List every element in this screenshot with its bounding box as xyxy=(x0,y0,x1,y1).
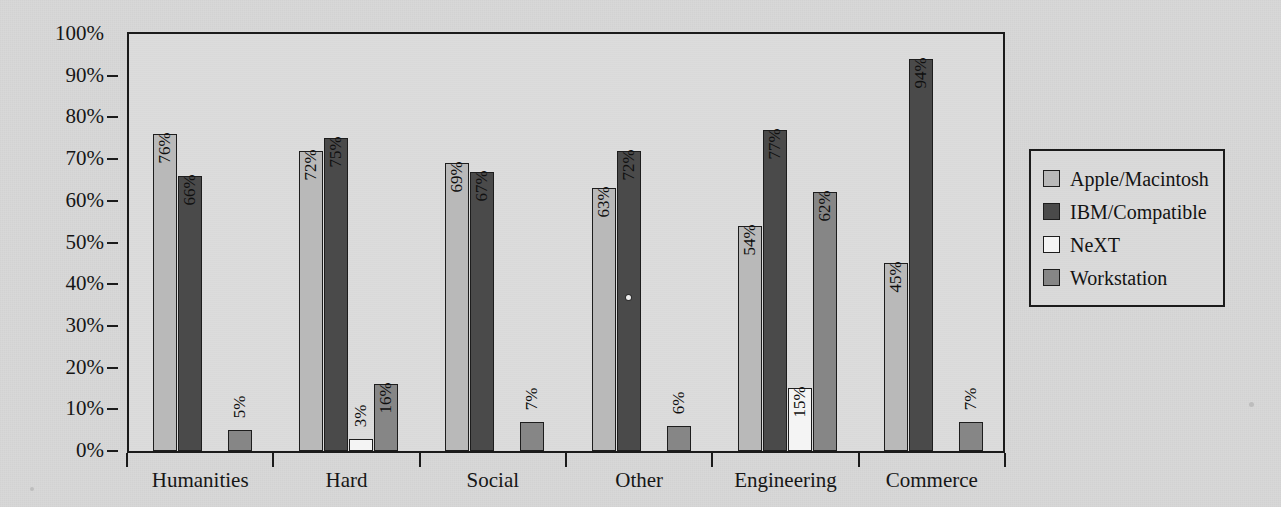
bar-value-label: 5% xyxy=(230,396,250,419)
y-axis-tick-label: 80% xyxy=(66,104,105,129)
x-axis-separator-tick xyxy=(858,453,860,467)
legend-item-label: NeXT xyxy=(1070,235,1120,255)
bar-group-engineering: 54%77%15%62% xyxy=(714,34,860,451)
bar: 66% xyxy=(178,176,202,451)
legend-item-label: IBM/Compatible xyxy=(1070,202,1207,222)
bar-value-label: 69% xyxy=(447,162,467,193)
x-axis-category-label: Social xyxy=(467,468,520,493)
bar-value-label: 7% xyxy=(522,387,542,410)
y-axis-tick-mark xyxy=(107,242,118,244)
legend-item-ibm-compatible[interactable]: IBM/Compatible xyxy=(1043,195,1211,228)
bar: 15% xyxy=(788,388,812,451)
y-axis-tick-label: 10% xyxy=(66,396,105,421)
bar: 3% xyxy=(349,439,373,452)
x-axis: HumanitiesHardSocialOtherEngineeringComm… xyxy=(0,453,1281,507)
bar: 77% xyxy=(763,130,787,451)
y-axis-tick-label: 60% xyxy=(66,188,105,213)
y-axis-tick-mark xyxy=(107,325,118,327)
x-axis-separator-tick xyxy=(272,453,274,467)
bar-group-social: 69%67%7% xyxy=(422,34,568,451)
bar-value-label: 63% xyxy=(594,187,614,218)
y-axis-tick-mark xyxy=(107,283,118,285)
scan-speck xyxy=(30,487,34,491)
y-axis-tick-mark xyxy=(107,367,118,369)
bar: 63% xyxy=(592,188,616,451)
legend: Apple/MacintoshIBM/CompatibleNeXTWorksta… xyxy=(1029,149,1225,307)
x-axis-category-label: Commerce xyxy=(886,468,978,493)
y-axis-tick-mark xyxy=(107,158,118,160)
y-axis-tick-label: 20% xyxy=(66,355,105,380)
x-axis-origin-tick xyxy=(126,453,128,467)
legend-item-label: Workstation xyxy=(1070,268,1167,288)
bar-group-commerce: 45%94%7% xyxy=(861,34,1007,451)
bars-layer: 76%66%5%72%75%3%16%69%67%7%63%72%6%54%77… xyxy=(129,34,1003,451)
bar-value-label: 75% xyxy=(326,137,346,168)
legend-item-label: Apple/Macintosh xyxy=(1070,169,1209,189)
bar-value-label: 3% xyxy=(351,404,371,427)
x-axis-separator-tick xyxy=(419,453,421,467)
y-axis-tick-mark xyxy=(107,116,118,118)
legend-item-workstation[interactable]: Workstation xyxy=(1043,261,1211,294)
y-axis-tick-mark xyxy=(107,450,118,452)
bar: 94% xyxy=(909,59,933,451)
bar-value-label: 72% xyxy=(619,149,639,180)
legend-swatch-icon xyxy=(1043,170,1060,187)
bar-value-label: 66% xyxy=(180,174,200,205)
bar-value-label: 72% xyxy=(301,149,321,180)
legend-item-apple-macintosh[interactable]: Apple/Macintosh xyxy=(1043,162,1211,195)
bar-value-label: 16% xyxy=(376,383,396,414)
bar: 62% xyxy=(813,192,837,451)
y-axis-tick-label: 70% xyxy=(66,146,105,171)
bar-value-label: 62% xyxy=(815,191,835,222)
bar: 76% xyxy=(153,134,177,451)
bar: 45% xyxy=(884,263,908,451)
plot-area: 76%66%5%72%75%3%16%69%67%7%63%72%6%54%77… xyxy=(127,32,1005,453)
bar: 7% xyxy=(520,422,544,451)
x-axis-separator-tick xyxy=(711,453,713,467)
legend-swatch-icon xyxy=(1043,236,1060,253)
x-axis-category-label: Engineering xyxy=(734,468,837,493)
bar-value-label: 76% xyxy=(155,133,175,164)
bar-group-hard: 72%75%3%16% xyxy=(275,34,421,451)
y-axis-tick-mark xyxy=(107,408,118,410)
bar-value-label: 45% xyxy=(886,262,906,293)
y-axis: 0%10%20%30%40%50%60%70%80%90%100% xyxy=(0,32,118,453)
scan-artifact-dot xyxy=(626,295,631,300)
x-axis-category-label: Humanities xyxy=(152,468,249,493)
x-axis-separator-tick xyxy=(565,453,567,467)
bar: 67% xyxy=(470,172,494,451)
bar: 54% xyxy=(738,226,762,451)
bar-group-other: 63%72%6% xyxy=(568,34,714,451)
y-axis-tick-mark xyxy=(107,75,118,77)
y-axis-tick-mark xyxy=(107,200,118,202)
bar-value-label: 6% xyxy=(669,392,689,415)
bar-group-humanities: 76%66%5% xyxy=(129,34,275,451)
bar-value-label: 7% xyxy=(961,387,981,410)
bar-value-label: 67% xyxy=(472,170,492,201)
legend-swatch-icon xyxy=(1043,269,1060,286)
bar-value-label: 54% xyxy=(740,224,760,255)
scan-speck xyxy=(1249,402,1254,407)
bar-value-label: 77% xyxy=(765,128,785,159)
bar-value-label: 15% xyxy=(790,387,810,418)
legend-swatch-icon xyxy=(1043,203,1060,220)
y-axis-tick-label: 90% xyxy=(66,63,105,88)
bar: 72% xyxy=(299,151,323,451)
x-axis-category-label: Hard xyxy=(326,468,368,493)
y-axis-tick-label: 100% xyxy=(55,21,104,46)
y-axis-tick-label: 40% xyxy=(66,271,105,296)
bar: 7% xyxy=(959,422,983,451)
bar: 6% xyxy=(667,426,691,451)
bar: 75% xyxy=(324,138,348,451)
bar: 5% xyxy=(228,430,252,451)
x-axis-separator-tick xyxy=(1004,453,1006,467)
chart-page: 0%10%20%30%40%50%60%70%80%90%100% 76%66%… xyxy=(0,0,1281,507)
bar: 72% xyxy=(617,151,641,451)
legend-item-next[interactable]: NeXT xyxy=(1043,228,1211,261)
y-axis-tick-label: 30% xyxy=(66,313,105,338)
bar: 16% xyxy=(374,384,398,451)
bar-value-label: 94% xyxy=(911,57,931,88)
y-axis-tick-label: 50% xyxy=(66,230,105,255)
bar: 69% xyxy=(445,163,469,451)
x-axis-category-label: Other xyxy=(615,468,663,493)
